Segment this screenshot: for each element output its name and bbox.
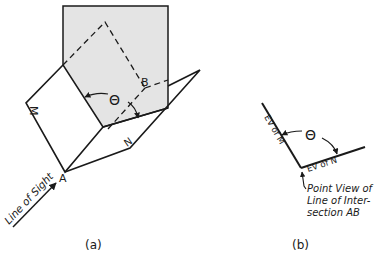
point-view-label-line1: Point View of: [307, 183, 374, 194]
caption-a: (a): [85, 238, 102, 252]
ev-of-n-label: EV of N: [306, 155, 339, 174]
angle-arrow-b-m: [282, 131, 302, 135]
point-a-label: A: [59, 172, 67, 185]
plane-n-label: N: [122, 135, 134, 148]
caption-b: (b): [292, 238, 309, 252]
ev-of-m-label: EV of M: [262, 113, 287, 146]
figure-b: EV of M EV of N Θ Point View of Line of …: [262, 103, 374, 252]
point-view-label-line2: Line of Inter-: [307, 195, 371, 206]
point-view-label-line3: section AB: [307, 207, 360, 218]
figure-a: Θ B M N A Line of Sight (a): [2, 6, 200, 252]
point-b-label: B: [141, 76, 149, 89]
angle-arrow-b-n: [322, 138, 337, 154]
shaded-projection-plane: [63, 6, 168, 127]
line-of-sight-label: Line of Sight: [2, 169, 56, 226]
dihedral-angle-diagram: Θ B M N A Line of Sight (a) EV of M EV o…: [0, 0, 390, 261]
plane-m-label: M: [27, 106, 40, 116]
angle-theta-label-a: Θ: [109, 92, 120, 108]
angle-theta-label-b: Θ: [305, 127, 316, 143]
point-view-leader: [302, 172, 306, 189]
